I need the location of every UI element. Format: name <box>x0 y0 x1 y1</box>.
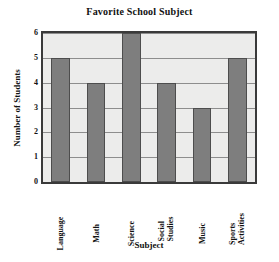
y-axis-title: Number of Students <box>9 31 25 184</box>
y-tick-label: 3 <box>25 104 38 112</box>
bar <box>157 83 175 182</box>
plot-area <box>41 31 257 184</box>
x-tick-label-text: SocialStudies <box>158 217 176 242</box>
bar <box>228 58 246 182</box>
x-tick-label: SocialStudies <box>149 186 184 238</box>
x-tick-label: Language <box>43 186 78 238</box>
y-tick-label: 2 <box>25 128 38 136</box>
y-tick-label: 6 <box>25 29 38 37</box>
chart-title: Favorite School Subject <box>0 6 279 17</box>
gridline <box>43 132 255 133</box>
y-tick-label: 4 <box>25 79 38 87</box>
y-tick-label: 0 <box>25 178 38 186</box>
y-tick-label: 1 <box>25 153 38 161</box>
x-axis-title: Subject <box>41 240 257 250</box>
bar <box>87 83 105 182</box>
gridline <box>43 83 255 84</box>
y-axis-title-text: Number of Students <box>12 69 22 146</box>
bar <box>122 33 140 182</box>
gridline <box>43 33 255 34</box>
x-tick-label: Science <box>114 186 149 238</box>
x-tick-label-line: Studies <box>167 217 176 242</box>
x-tick-label: Math <box>78 186 113 238</box>
plot-inner <box>43 33 255 182</box>
bar <box>51 58 69 182</box>
gridline <box>43 58 255 59</box>
gridline <box>43 108 255 109</box>
gridline <box>43 157 255 158</box>
x-tick-label: SportsActivities <box>220 186 255 238</box>
bar <box>193 108 211 183</box>
x-tick-label: Music <box>184 186 219 238</box>
y-axis-tick-labels: 0123456 <box>25 31 38 184</box>
x-tick-label-line: Social <box>158 221 167 241</box>
x-axis-tick-labels: LanguageMathScienceSocialStudiesMusicSpo… <box>41 186 257 238</box>
y-tick-label: 5 <box>25 54 38 62</box>
